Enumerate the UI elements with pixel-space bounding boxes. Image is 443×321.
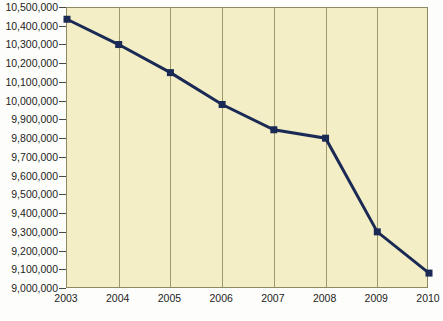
y-axis-tick-mark [59,157,66,158]
y-axis-tick-mark [59,176,66,177]
data-point-marker: 2010: 9,085,000 [426,270,433,277]
y-axis-tick-label: 9,700,000 [0,152,58,162]
y-axis-tick-label: 9,900,000 [0,114,58,124]
y-axis-tick-label: 9,800,000 [0,133,58,143]
y-axis-tick-mark [59,213,66,214]
y-axis-tick-mark [59,7,66,8]
y-axis: 10,500,00010,400,00010,300,00010,200,000… [0,0,58,321]
y-axis-tick-label: 9,100,000 [0,264,58,274]
plot-area: 2003: 10,440,0002004: 10,305,0002005: 10… [66,7,428,288]
y-axis-tick-label: 10,100,000 [0,77,58,87]
y-axis-tick-label: 10,000,000 [0,96,58,106]
x-axis-tick-label: 2009 [351,292,401,304]
x-axis-tick-label: 2007 [248,292,298,304]
x-axis-tick-label: 2010 [403,292,443,304]
data-point-marker: 2008: 9,805,000 [322,135,329,142]
y-axis-tick-label: 10,300,000 [0,39,58,49]
y-axis-tick-mark [59,232,66,233]
y-axis-tick-mark [59,63,66,64]
x-axis-tick-label: 2003 [41,292,91,304]
y-axis-tick-mark [59,269,66,270]
y-axis-tick-label: 10,400,000 [0,21,58,31]
data-point-marker: 2009: 9,305,000 [374,228,381,235]
x-axis-tick-label: 2006 [196,292,246,304]
data-point-marker: 2004: 10,305,000 [115,41,122,48]
y-axis-tick-mark [59,82,66,83]
y-axis-tick-mark [59,138,66,139]
y-axis-tick-label: 9,500,000 [0,189,58,199]
line-chart: 10,500,00010,400,00010,300,00010,200,000… [0,0,443,321]
x-axis: 20032004200520062007200820092010 [0,292,443,316]
y-axis-tick-label: 9,200,000 [0,246,58,256]
y-axis-tick-label: 9,600,000 [0,171,58,181]
y-axis-tick-mark [59,101,66,102]
y-axis-tick-mark [59,26,66,27]
y-axis-tick-label: 9,300,000 [0,227,58,237]
y-axis-tick-mark [59,288,66,289]
x-axis-tick-label: 2004 [93,292,143,304]
y-axis-tick-mark [59,194,66,195]
data-point-marker: 2006: 9,985,000 [219,101,226,108]
x-axis-tick-label: 2008 [300,292,350,304]
y-axis-tick-label: 9,400,000 [0,208,58,218]
data-point-marker: 2005: 10,155,000 [167,69,174,76]
data-point-marker: 2003: 10,440,000 [64,16,71,23]
y-axis-tick-label: 10,500,000 [0,2,58,12]
x-axis-tick-label: 2005 [144,292,194,304]
series-line-group: 2003: 10,440,0002004: 10,305,0002005: 10… [67,8,429,289]
y-axis-tick-mark [59,44,66,45]
data-point-marker: 2007: 9,850,000 [270,126,277,133]
y-axis-tick-mark [59,251,66,252]
y-axis-tick-label: 10,200,000 [0,58,58,68]
y-axis-tick-mark [59,119,66,120]
